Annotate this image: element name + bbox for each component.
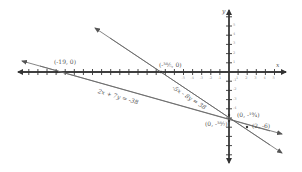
x-tick-label: -3 (200, 77, 203, 81)
y-axis-label: y (222, 8, 225, 14)
x-tick-label: 4 (263, 77, 265, 81)
x-tick-label: 5 (273, 77, 275, 81)
y-tick-label: 3 (233, 42, 235, 46)
y-tick-label: -2 (233, 88, 236, 92)
y-tick-label: -1 (233, 79, 236, 83)
y-tick-label: -3 (233, 98, 236, 102)
x-axis-label: x (276, 62, 279, 68)
y-tick-label: 2 (233, 52, 235, 56)
point-neg19 (56, 71, 58, 73)
point-intersect (246, 126, 248, 128)
x-axis (18, 69, 286, 75)
point-yint2 (228, 120, 230, 122)
point-xint2 (160, 71, 162, 73)
label-point-neg19: (-19, 0) (54, 59, 76, 65)
label-point-xint2: (-³⁸⁄₅, 0) (159, 62, 182, 68)
x-tick-label: 3 (254, 77, 256, 81)
y-axis (226, 10, 232, 163)
y-tick-label: 1 (233, 61, 235, 65)
point-yint1 (228, 114, 230, 116)
x-tick-label: 2 (245, 77, 247, 81)
label-point-yint2: (0, -³⁸⁄₇) (205, 121, 228, 127)
coordinate-plane (0, 0, 302, 172)
y-tick-label: 5 (233, 24, 235, 28)
x-tick-label: 1 (236, 77, 238, 81)
x-tick-label: -2 (209, 77, 212, 81)
y-tick-label: -4 (233, 107, 236, 111)
label-point-intersect: (2, -6) (252, 123, 270, 129)
x-tick-label: -4 (191, 77, 194, 81)
x-tick-label: -5 (182, 77, 185, 81)
label-point-yint1: (0, -¹⁹⁄₄) (237, 112, 260, 118)
y-tick-label: 4 (233, 33, 235, 37)
line-eq1 (95, 28, 282, 153)
x-tick-label: -1 (218, 77, 221, 81)
